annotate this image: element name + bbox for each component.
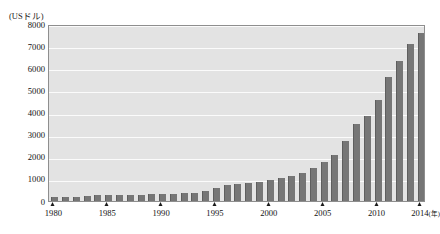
bar <box>94 195 101 201</box>
bar <box>385 77 392 201</box>
y-axis-tick-label: 0 <box>3 198 45 207</box>
y-axis-tick-label: 8000 <box>3 21 45 30</box>
bar <box>138 195 145 201</box>
y-axis-tick-label: 1000 <box>3 175 45 184</box>
bar <box>191 193 198 201</box>
bar <box>331 155 338 201</box>
x-axis-tick-label: 1980 <box>45 208 62 218</box>
y-axis-tick-labels: 800070006000500040003000200010000 <box>0 25 45 202</box>
bar <box>73 197 80 201</box>
plot-area <box>48 25 425 202</box>
x-axis-tick-label: 1990 <box>153 208 170 218</box>
bar <box>278 178 285 201</box>
x-axis-tick-mark <box>266 202 270 206</box>
bar <box>234 184 241 201</box>
bar <box>181 193 188 201</box>
x-axis-tick-mark <box>159 202 163 206</box>
x-axis-tick-labels: 19801985199019952000200520102014(年) <box>48 202 425 232</box>
x-axis-tick-mark <box>105 202 109 206</box>
bar <box>159 194 166 201</box>
x-axis-tick-label: 1985 <box>99 208 116 218</box>
y-axis-tick-label: 4000 <box>3 109 45 118</box>
x-axis-unit-label: (年) <box>429 210 440 217</box>
bar <box>148 194 155 201</box>
x-axis-tick-label: 2014(年) <box>411 208 440 219</box>
bar <box>418 33 425 201</box>
bar <box>51 197 58 201</box>
y-axis-tick-label: 5000 <box>3 87 45 96</box>
bar <box>202 191 209 201</box>
x-axis-tick-mark <box>417 202 421 206</box>
x-axis-tick-mark <box>212 202 216 206</box>
x-axis-tick-label: 1995 <box>206 208 223 218</box>
bar <box>256 182 263 201</box>
bar <box>267 180 274 201</box>
bar <box>245 183 252 201</box>
bar <box>170 194 177 201</box>
bar <box>84 196 91 201</box>
bar <box>127 195 134 201</box>
bar <box>116 195 123 201</box>
bar <box>213 188 220 201</box>
bar <box>105 195 112 202</box>
bar-series <box>49 26 424 201</box>
bar <box>396 61 403 201</box>
bar <box>375 100 382 201</box>
bar <box>299 173 306 202</box>
x-axis-tick-mark <box>320 202 324 206</box>
x-axis-tick-label: 2010 <box>368 208 385 218</box>
x-axis-tick-label: 2000 <box>260 208 277 218</box>
y-axis-tick-label: 7000 <box>3 43 45 52</box>
x-axis-tick-label: 2005 <box>314 208 331 218</box>
bar <box>310 168 317 201</box>
bar <box>288 176 295 201</box>
bar <box>62 197 69 201</box>
bar <box>364 116 371 201</box>
x-axis-tick-mark <box>51 202 55 206</box>
x-axis-tick-mark <box>374 202 378 206</box>
bar <box>407 44 414 201</box>
bar <box>353 124 360 201</box>
y-axis-tick-label: 6000 <box>3 65 45 74</box>
bar <box>321 162 328 201</box>
bar <box>224 185 231 201</box>
bar <box>342 141 349 201</box>
y-axis-tick-label: 2000 <box>3 153 45 162</box>
y-axis-tick-label: 3000 <box>3 131 45 140</box>
